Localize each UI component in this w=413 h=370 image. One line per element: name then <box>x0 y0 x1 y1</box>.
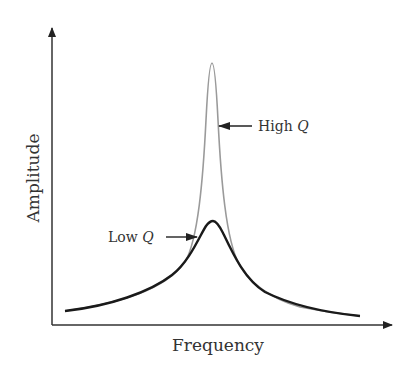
resonance-diagram: High Q Low Q Frequency Amplitude <box>0 0 413 370</box>
high-q-label-symbol: Q <box>297 118 309 134</box>
high-q-curve <box>65 63 360 316</box>
low-q-label-symbol: Q <box>142 229 154 245</box>
x-axis-label: Frequency <box>172 335 264 355</box>
high-q-label: High Q <box>258 118 309 134</box>
high-q-label-prefix: High <box>258 118 297 134</box>
low-q-label-prefix: Low <box>108 229 142 245</box>
low-q-label: Low Q <box>108 229 154 245</box>
y-axis-label: Amplitude <box>23 134 43 224</box>
